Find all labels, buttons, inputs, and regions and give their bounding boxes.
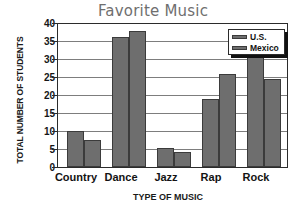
- legend-entry-mexico: Mexico: [232, 43, 281, 53]
- bar-jazz-mexico: [174, 152, 191, 167]
- legend-swatch-icon: [232, 35, 247, 39]
- chart-screenshot: Favorite Music TOTAL NUMBER OF STUDENTS …: [0, 0, 306, 212]
- y-tick-label: 20: [35, 91, 55, 101]
- x-axis-title: TYPE OF MUSIC: [46, 192, 290, 202]
- legend-entry-us: U.S.: [232, 32, 281, 42]
- legend-label-us: U.S.: [250, 33, 267, 42]
- bar-group-country: [67, 24, 101, 167]
- bar-rock-mexico: [264, 79, 281, 167]
- bar-group-dance: [112, 24, 146, 167]
- y-tick-label: 5: [35, 145, 55, 155]
- y-tick-label: 15: [35, 109, 55, 119]
- bar-rap-us: [202, 99, 219, 167]
- bar-rock-us: [247, 56, 264, 167]
- legend: U.S. Mexico: [228, 29, 285, 55]
- y-tick-label: 40: [35, 19, 55, 29]
- y-tick-label: 10: [35, 127, 55, 137]
- bar-country-mexico: [84, 140, 101, 167]
- bar-rap-mexico: [219, 74, 236, 167]
- bar-dance-mexico: [129, 31, 146, 167]
- y-axis-title: TOTAL NUMBER OF STUDENTS: [15, 20, 25, 180]
- bar-country-us: [67, 131, 84, 167]
- y-tick-label: 35: [35, 37, 55, 47]
- legend-label-mexico: Mexico: [250, 44, 279, 53]
- y-tick-label: 25: [35, 73, 55, 83]
- bar-dance-us: [112, 37, 129, 168]
- bar-group-jazz: [157, 24, 191, 167]
- y-tick-label: 30: [35, 55, 55, 65]
- legend-swatch-icon: [232, 46, 247, 50]
- bar-jazz-us: [157, 148, 174, 167]
- x-tick-label-rock: Rock: [225, 171, 287, 183]
